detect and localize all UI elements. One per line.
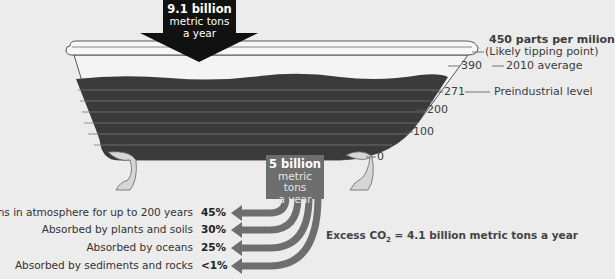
outflow-unit: metric tons xyxy=(266,171,324,194)
fate-label-atmosphere: Remains in atmosphere for up to 200 year… xyxy=(0,206,193,218)
water-co2-level xyxy=(76,74,448,160)
inflow-period: a year xyxy=(163,27,236,39)
fate-percent-atmosphere: 45% xyxy=(201,206,226,218)
fate-percent-sediments-rocks: <1% xyxy=(201,259,228,271)
scale-value-390: 390 xyxy=(461,59,482,72)
scale-label-2010-average: 2010 average xyxy=(506,59,583,72)
fate-label-sediments-rocks: Absorbed by sediments and rocks xyxy=(15,259,193,271)
outflow-period: a year xyxy=(266,194,324,206)
scale-value-0: 0 xyxy=(377,150,384,163)
tipping-point-note: (Likely tipping point) xyxy=(485,46,598,58)
excess-suffix: = 4.1 billion metric tons a year xyxy=(391,229,578,241)
inflow-unit: metric tons xyxy=(163,15,236,27)
fate-percent-oceans: 25% xyxy=(201,241,226,253)
scale-label-preindustrial: Preindustrial level xyxy=(494,85,593,98)
outflow-label: 5 billion metric tons a year xyxy=(266,159,324,205)
fate-percent-plants-soils: 30% xyxy=(201,223,226,235)
scale-value-271: 271 xyxy=(444,85,465,98)
scale-value-100: 100 xyxy=(413,125,434,138)
fate-label-oceans: Absorbed by oceans xyxy=(86,241,193,253)
fate-label-plants-soils: Absorbed by plants and soils xyxy=(42,223,193,235)
outflow-amount: 5 billion xyxy=(266,159,324,171)
excess-prefix: Excess CO xyxy=(326,229,386,241)
tub-rim xyxy=(66,41,478,55)
outflow-arrows xyxy=(240,197,318,266)
inflow-amount: 9.1 billion xyxy=(163,3,236,15)
excess-co2-summary: Excess CO2 = 4.1 billion metric tons a y… xyxy=(326,229,578,244)
scale-value-200: 200 xyxy=(427,103,448,116)
outflow-arrowheads xyxy=(231,205,242,274)
inflow-label: 9.1 billion metric tons a year xyxy=(163,3,236,39)
